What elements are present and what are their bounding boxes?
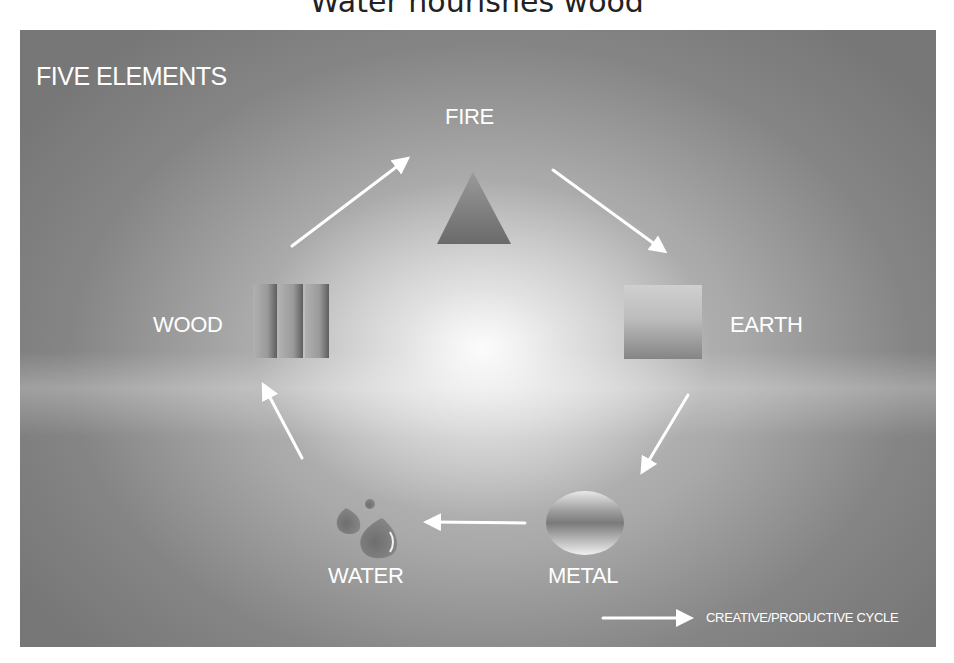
legend-label: CREATIVE/PRODUCTIVE CYCLE xyxy=(706,610,898,625)
arrow-metal-to-water xyxy=(432,522,525,523)
arrow-earth-to-metal xyxy=(645,395,688,467)
arrow-fire-to-earth xyxy=(553,170,660,248)
five-elements-diagram: FIVE ELEMENTS FIRE EARTH METAL xyxy=(20,30,936,647)
arrow-water-to-wood xyxy=(266,390,302,458)
cycle-arrows xyxy=(20,30,936,647)
caption: Water nourishes wood xyxy=(0,0,954,19)
arrow-wood-to-fire xyxy=(292,162,403,246)
